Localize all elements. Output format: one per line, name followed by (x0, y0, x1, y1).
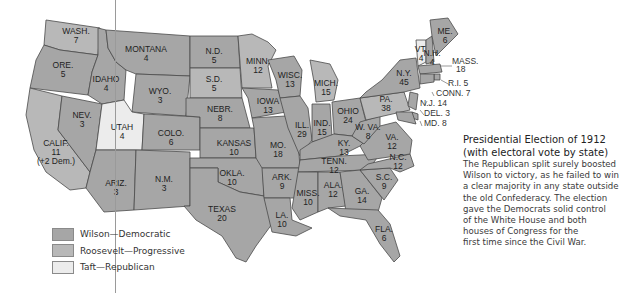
legend-label: Wilson—Democratic (80, 229, 170, 239)
state-label: CONN. 7 (436, 88, 471, 98)
state-conn (420, 74, 434, 84)
legend-swatch-wilson (52, 228, 74, 241)
state-label: LA.10 (276, 210, 289, 229)
legend: Wilson—Democratic Roosevelt—Progressive … (52, 226, 185, 276)
legend-label: Taft—Republican (80, 262, 155, 272)
legend-label: Roosevelt—Progressive (80, 246, 185, 256)
legend-item-wilson: Wilson—Democratic (52, 226, 185, 243)
legend-item-roosevelt: Roosevelt—Progressive (52, 243, 185, 260)
state-label: DEL. 3 (424, 108, 450, 118)
state-label: MD. 8 (424, 118, 447, 128)
state-label: PA.38 (379, 94, 392, 113)
caption-title: Presidential Election of 1912 (463, 133, 640, 146)
caption-line: Wilson to victory, as he failed to win (463, 170, 640, 181)
caption-line: gave the Democrats solid control (463, 204, 640, 215)
caption-line: a clear majority in any state outside (463, 181, 640, 192)
caption-line: houses of Congress for the (463, 226, 640, 237)
state-md (396, 112, 416, 124)
state-label: N.J. 14 (420, 98, 447, 108)
state-label: KY.13 (338, 138, 351, 157)
state-r-i (434, 74, 440, 80)
legend-swatch-taft (52, 261, 74, 274)
state-label: R.I. 5 (448, 78, 469, 88)
caption-line: the old Confederacy. The election (463, 193, 640, 204)
legend-item-taft: Taft—Republican (52, 259, 185, 276)
caption-subtitle: (with electoral vote by state) (463, 146, 640, 159)
caption-line: first time since the Civil War. (463, 237, 640, 248)
state-fla (328, 208, 400, 262)
caption-line: The Republican split surely boosted (463, 159, 640, 170)
state-label: MASS.18 (452, 56, 478, 74)
legend-swatch-roosevelt (52, 244, 74, 257)
caption: Presidential Election of 1912 (with elec… (463, 133, 640, 249)
caption-line: of the White House and both (463, 215, 640, 226)
state-label: VA.12 (385, 132, 398, 151)
